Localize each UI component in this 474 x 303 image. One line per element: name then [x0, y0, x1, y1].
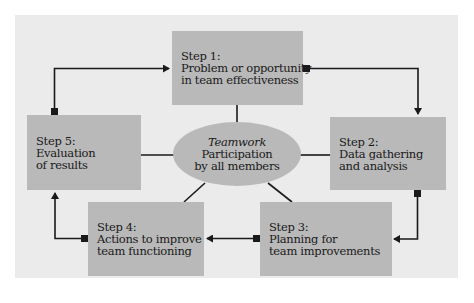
center-line2: by all members [194, 160, 279, 172]
step-1-line2: in team effectiveness [181, 74, 303, 86]
step-1-box: Step 1: Problem or opportunity in team e… [172, 31, 303, 105]
step-2-box: Step 2: Data gathering and analysis [330, 117, 446, 190]
step-5-line1: Evaluation [36, 147, 141, 159]
step-5-box: Step 5: Evaluation of results [27, 115, 141, 190]
step-2-line2: and analysis [339, 160, 446, 172]
arrow-step2-to-step3 [394, 190, 421, 239]
arrow-step1-to-step2 [303, 65, 418, 114]
arrow-step4-to-step5 [55, 193, 88, 242]
step-2-line1: Data gathering [339, 148, 446, 160]
arrow-step5-to-step1 [51, 69, 169, 116]
step-3-box: Step 3: Planning for team improvements [260, 202, 392, 276]
step-2-label: Step 2: [339, 136, 446, 148]
step-5-line2: of results [36, 159, 141, 171]
arrow-step3-to-step4 [207, 235, 260, 242]
step-3-line2: team improvements [269, 245, 392, 257]
step-4-line2: team functioning [97, 245, 204, 257]
step-5-label: Step 5: [36, 135, 141, 147]
step-4-box: Step 4: Actions to improve team function… [88, 202, 204, 276]
center-label: Teamwork Participation by all members [174, 124, 300, 184]
